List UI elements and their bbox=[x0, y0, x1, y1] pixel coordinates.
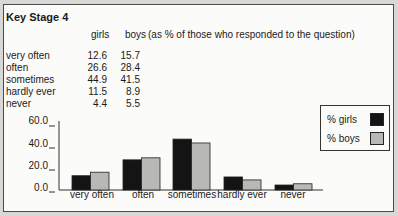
bar-girls bbox=[173, 139, 192, 190]
legend: % girls % boys bbox=[320, 105, 390, 151]
x-label: never bbox=[258, 189, 328, 200]
bar-boys bbox=[91, 172, 110, 190]
bar-girls bbox=[72, 176, 91, 190]
bar-boys bbox=[192, 143, 211, 190]
legend-label-girls: % girls bbox=[327, 114, 357, 125]
bar-girls bbox=[123, 160, 142, 190]
bar-boys bbox=[142, 158, 161, 190]
legend-label-boys: % boys bbox=[327, 133, 360, 144]
legend-swatch-boys bbox=[370, 132, 384, 145]
legend-swatch-girls bbox=[370, 113, 384, 126]
